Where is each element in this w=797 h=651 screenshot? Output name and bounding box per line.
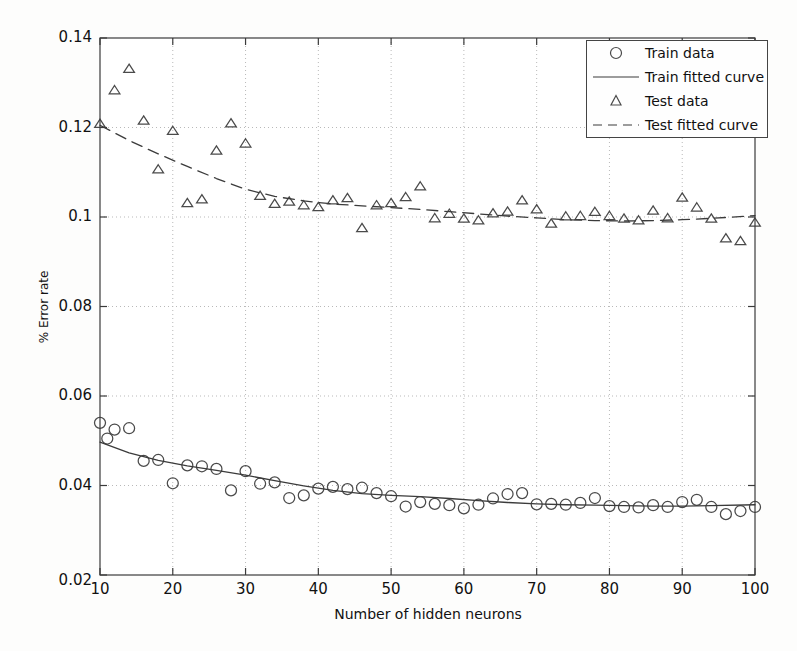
legend-label: Test data	[645, 93, 709, 109]
x-axis-tick-label: 30	[216, 580, 276, 598]
legend-label: Train fitted curve	[645, 69, 764, 85]
circle-marker-icon	[587, 41, 645, 65]
dashed-line-icon	[587, 113, 645, 137]
x-axis-tick-label: 90	[652, 580, 712, 598]
legend-item-train-fitted-curve: Train fitted curve	[587, 65, 767, 89]
x-axis-tick-label: 100	[725, 580, 785, 598]
legend-item-test-fitted-curve: Test fitted curve	[587, 113, 767, 137]
triangle-marker-icon	[587, 89, 645, 113]
x-axis-tick-label: 20	[143, 580, 203, 598]
y-axis-tick-label: 0.1	[4, 207, 92, 225]
x-axis-tick-label: 50	[361, 580, 421, 598]
legend-label: Test fitted curve	[645, 117, 758, 133]
y-axis-tick-label: 0.14	[4, 28, 92, 46]
legend-item-train-data: Train data	[587, 41, 767, 65]
y-axis-tick-label: 0.06	[4, 386, 92, 404]
chart-legend: Train data Train fitted curve Test data …	[586, 40, 768, 138]
legend-item-test-data: Test data	[587, 89, 767, 113]
y-axis-tick-label: 0.12	[4, 118, 92, 136]
x-axis-tick-label: 70	[507, 580, 567, 598]
chart-figure: % Error rate Number of hidden neurons Tr…	[0, 0, 797, 651]
y-axis-tick-label: 0.04	[4, 476, 92, 494]
x-axis-tick-label: 40	[288, 580, 348, 598]
x-axis-tick-label: 60	[434, 580, 494, 598]
y-axis-tick-label: 0.08	[4, 297, 92, 315]
legend-label: Train data	[645, 45, 715, 61]
x-axis-label: Number of hidden neurons	[228, 606, 628, 622]
solid-line-icon	[587, 65, 645, 89]
x-axis-tick-label: 10	[70, 580, 130, 598]
x-axis-tick-label: 80	[579, 580, 639, 598]
